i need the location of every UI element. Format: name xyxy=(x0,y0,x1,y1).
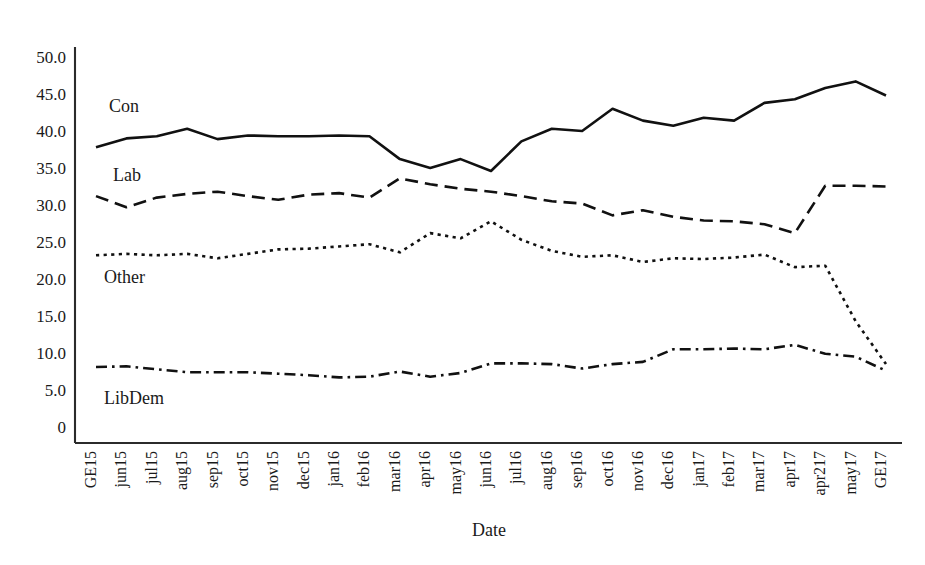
line-chart-poll-trends: 05.010.015.020.025.030.035.040.045.050.0… xyxy=(0,0,925,565)
x-tick-label: jan17 xyxy=(690,451,708,488)
series-line-lab xyxy=(96,178,886,233)
x-tick-label: GE17 xyxy=(872,451,889,488)
x-tick-label: jun16 xyxy=(477,451,495,488)
y-tick-label: 15.0 xyxy=(36,307,66,326)
series-line-other xyxy=(96,221,886,364)
chart-svg: 05.010.015.020.025.030.035.040.045.050.0… xyxy=(0,0,925,565)
x-tick-label: jul15 xyxy=(143,451,161,485)
y-tick-label: 25.0 xyxy=(36,233,66,252)
x-tick-label: apr217 xyxy=(811,451,829,495)
x-tick-label: jul16 xyxy=(507,451,525,485)
series-label-con: Con xyxy=(109,96,139,116)
x-tick-label: nov15 xyxy=(264,451,281,491)
y-tick-labels: 05.010.015.020.025.030.035.040.045.050.0 xyxy=(36,48,66,437)
y-tick-label: 10.0 xyxy=(36,344,66,363)
x-axis-title: Date xyxy=(472,520,506,540)
x-tick-labels: GE15jun15jul15aug15sep15oct15nov15dec15j… xyxy=(82,451,889,495)
series-lines xyxy=(96,81,886,377)
y-tick-label: 35.0 xyxy=(36,159,66,178)
x-tick-label: mar16 xyxy=(386,451,403,492)
y-tick-label: 20.0 xyxy=(36,270,66,289)
y-tick-label: 5.0 xyxy=(45,381,66,400)
x-tick-label: dec16 xyxy=(659,451,676,489)
x-tick-label: may17 xyxy=(842,451,860,495)
x-tick-label: feb17 xyxy=(720,451,737,487)
x-tick-label: mar17 xyxy=(750,451,767,492)
x-tick-label: sep16 xyxy=(568,451,586,488)
x-tick-label: may16 xyxy=(447,451,465,495)
x-tick-label: oct16 xyxy=(599,451,616,487)
x-tick-label: jan16 xyxy=(325,451,343,488)
series-line-con xyxy=(96,81,886,171)
series-label-other: Other xyxy=(104,267,145,287)
series-label-lab: Lab xyxy=(113,165,141,185)
x-tick-label: apr16 xyxy=(416,451,434,487)
x-tick-label: feb16 xyxy=(355,451,372,487)
y-tick-label: 50.0 xyxy=(36,48,66,67)
x-tick-label: oct15 xyxy=(234,451,251,487)
y-tick-label: 40.0 xyxy=(36,122,66,141)
y-tick-label: 45.0 xyxy=(36,85,66,104)
x-tick-label: GE15 xyxy=(82,451,99,488)
y-tick-label: 0 xyxy=(58,418,67,437)
x-tick-label: sep15 xyxy=(204,451,222,488)
x-tick-label: aug16 xyxy=(538,451,556,490)
series-line-libdem xyxy=(96,345,886,378)
y-tick-label: 30.0 xyxy=(36,196,66,215)
x-tick-label: aug15 xyxy=(173,451,191,490)
x-tick-label: jun15 xyxy=(112,451,130,488)
x-tick-label: dec15 xyxy=(295,451,312,489)
x-tick-label: nov16 xyxy=(629,451,646,491)
series-label-libdem: LibDem xyxy=(104,388,164,408)
x-tick-label: apr17 xyxy=(781,451,799,487)
